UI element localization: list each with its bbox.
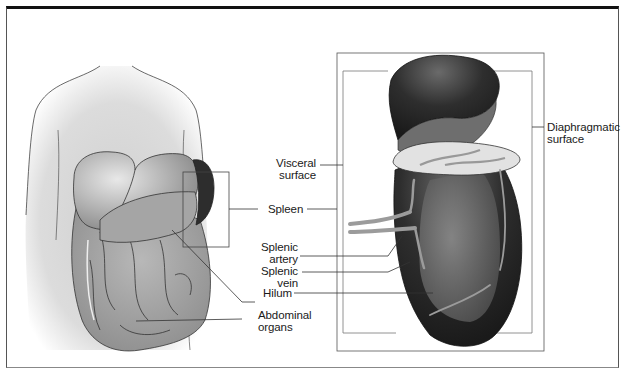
label-line: organs <box>258 321 311 333</box>
label-line: Diaphragmatic <box>547 121 620 133</box>
label-diaphragmatic-surface: Diaphragmatic surface <box>547 121 620 145</box>
label-line: surface <box>547 133 620 145</box>
label-splenic-vein: Splenic vein <box>250 265 298 289</box>
label-splenic-artery: Splenic artery <box>250 241 298 265</box>
label-line: Visceral <box>250 157 316 169</box>
label-spleen: Spleen <box>268 203 303 215</box>
label-hilum: Hilum <box>250 287 292 299</box>
label-line: Splenic <box>250 241 298 253</box>
label-visceral-surface: Visceral surface <box>250 157 316 181</box>
label-line: Abdominal <box>258 309 311 321</box>
label-line: artery <box>250 253 298 265</box>
label-line: Splenic <box>250 265 298 277</box>
anatomy-illustration <box>0 0 627 376</box>
label-line: surface <box>250 169 316 181</box>
label-abdominal-organs: Abdominal organs <box>258 309 311 333</box>
